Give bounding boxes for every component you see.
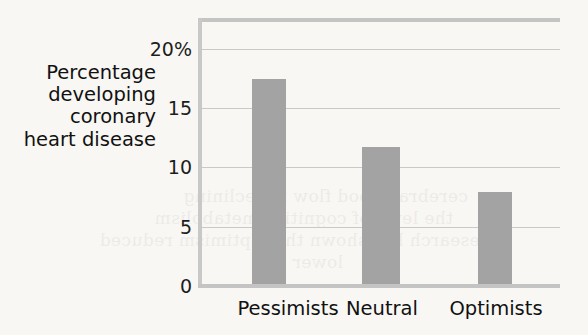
x-axis-baseline	[198, 284, 560, 288]
bar-optimists[interactable]	[478, 192, 512, 286]
x-tick-label-neutral: Neutral	[326, 297, 438, 320]
y-tick-label-10: 10	[120, 158, 192, 177]
bar-series	[201, 20, 560, 286]
bar-neutral[interactable]	[362, 147, 400, 286]
bar-pessimists[interactable]	[252, 79, 286, 286]
y-axis-title-line: heart disease	[8, 129, 156, 151]
x-tick-label-optimists: Optimists	[435, 297, 557, 320]
y-tick-label-5: 5	[120, 218, 192, 237]
y-tick-label-20: 20%	[120, 40, 192, 59]
y-tick-label-0: 0	[120, 277, 192, 296]
plot-top-border	[201, 18, 560, 22]
y-axis-title-line: Percentage	[8, 62, 156, 84]
bar-chart-figure: Percentage developing coronary heart dis…	[0, 0, 588, 335]
y-tick-label-15: 15	[120, 99, 192, 118]
y-axis-line	[198, 18, 202, 288]
